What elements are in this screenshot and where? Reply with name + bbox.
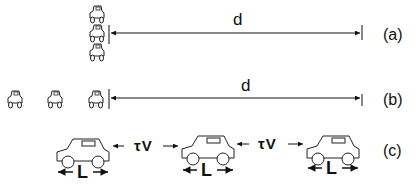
gap-label-1: τV	[134, 138, 153, 153]
panel-label-c: (c)	[383, 143, 402, 159]
car-icon	[89, 91, 103, 108]
distance-label-a: d	[233, 11, 242, 28]
car-icon	[8, 91, 22, 108]
panel-label-b: (b)	[383, 92, 403, 108]
gap-label-2: τV	[258, 136, 277, 151]
diagram-canvas	[0, 0, 418, 186]
car-icon	[48, 91, 62, 108]
panel-a	[90, 6, 362, 61]
panel-b	[8, 89, 362, 109]
car-icon	[90, 44, 104, 61]
length-label-3: L	[326, 159, 337, 177]
distance-label-b: d	[241, 77, 250, 94]
car-icon	[90, 6, 104, 23]
length-label-1: L	[77, 163, 88, 181]
panel-label-a: (a)	[383, 27, 403, 43]
car-icon	[90, 25, 104, 42]
length-label-2: L	[201, 161, 212, 179]
